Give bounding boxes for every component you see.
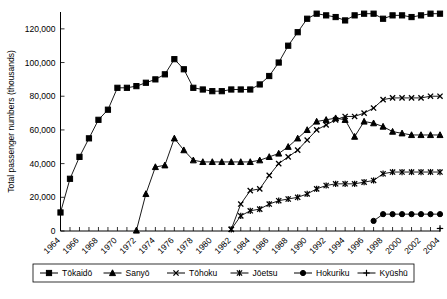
data-point-marker xyxy=(295,30,300,35)
data-point-marker xyxy=(352,13,357,18)
data-point-marker xyxy=(428,212,433,217)
legend-label: Sanyō xyxy=(126,268,150,278)
y-axis-title: Total passenger numbers (thousands) xyxy=(6,50,16,193)
data-point-marker xyxy=(181,67,186,72)
data-point-marker xyxy=(362,11,367,16)
data-point-marker xyxy=(437,212,442,217)
data-point-marker xyxy=(343,18,348,23)
data-point-marker xyxy=(191,85,196,90)
legend-label: Tōhoku xyxy=(189,268,218,278)
data-point-marker xyxy=(371,218,376,223)
data-point-marker xyxy=(67,176,72,181)
y-tick-label: 120,000 xyxy=(25,24,56,34)
data-point-marker xyxy=(210,89,215,94)
data-point-marker xyxy=(418,212,423,217)
data-point-marker xyxy=(200,87,205,92)
chart-legend: TōkaidōSanyōTōhokuJōetsuHokurikuKyūshū xyxy=(33,264,414,282)
legend-label: Kyūshū xyxy=(380,268,409,278)
y-tick-label: 60,000 xyxy=(30,125,56,135)
data-point-marker xyxy=(333,14,338,19)
data-point-marker xyxy=(380,212,385,217)
data-point-marker xyxy=(46,270,51,275)
data-point-marker xyxy=(371,11,376,16)
data-point-marker xyxy=(390,212,395,217)
data-point-marker xyxy=(286,43,291,48)
y-tick-label: 40,000 xyxy=(30,159,56,169)
y-tick-label: 100,000 xyxy=(25,58,56,68)
y-tick-label: 0 xyxy=(51,226,56,236)
data-point-marker xyxy=(58,210,63,215)
data-point-marker xyxy=(418,13,423,18)
data-point-marker xyxy=(399,212,404,217)
data-point-marker xyxy=(96,117,101,122)
data-point-marker xyxy=(134,84,139,89)
data-point-marker xyxy=(409,212,414,217)
y-tick-label: 20,000 xyxy=(30,192,56,202)
legend-label: Tōkaidō xyxy=(62,268,93,278)
data-point-marker xyxy=(305,16,310,21)
data-point-marker xyxy=(409,14,414,19)
data-point-marker xyxy=(124,85,129,90)
data-point-marker xyxy=(77,154,82,159)
data-point-marker xyxy=(276,60,281,65)
data-point-marker xyxy=(390,13,395,18)
data-point-marker xyxy=(324,13,329,18)
data-point-marker xyxy=(172,57,177,62)
chart-container: Total passenger numbers (thousands) 020,… xyxy=(0,0,447,299)
legend-label: Hokuriku xyxy=(316,268,350,278)
data-point-marker xyxy=(437,11,442,16)
data-point-marker xyxy=(143,80,148,85)
data-point-marker xyxy=(86,136,91,141)
data-point-marker xyxy=(257,82,262,87)
line-chart: Total passenger numbers (thousands) 020,… xyxy=(0,0,447,299)
data-point-marker xyxy=(162,72,167,77)
y-axis-label: Total passenger numbers (thousands) xyxy=(6,50,16,193)
data-point-marker xyxy=(115,85,120,90)
data-point-marker xyxy=(238,87,243,92)
data-point-marker xyxy=(229,87,234,92)
data-point-marker xyxy=(314,11,319,16)
data-point-marker xyxy=(300,270,305,275)
data-point-marker xyxy=(105,107,110,112)
data-point-marker xyxy=(399,13,404,18)
data-point-marker xyxy=(380,16,385,21)
legend-label: Jōetsu xyxy=(253,268,278,278)
data-point-marker xyxy=(219,89,224,94)
data-point-marker xyxy=(248,87,253,92)
data-point-marker xyxy=(428,11,433,16)
data-point-marker xyxy=(153,77,158,82)
data-point-marker xyxy=(267,73,272,78)
y-tick-label: 80,000 xyxy=(30,91,56,101)
